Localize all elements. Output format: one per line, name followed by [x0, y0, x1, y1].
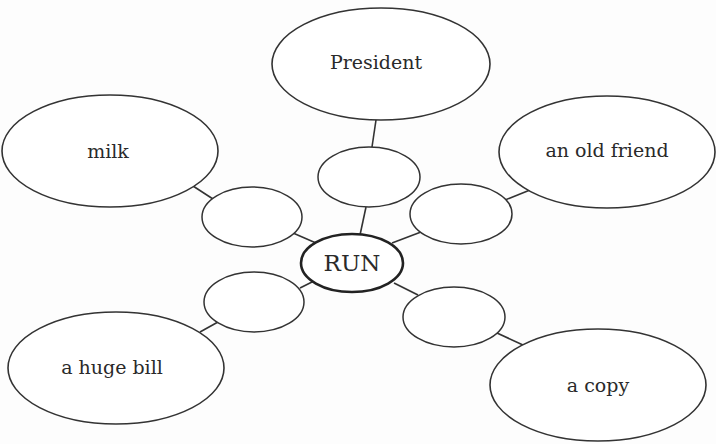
connector-center-upper-right: [392, 232, 421, 243]
node-a-huge-bill: a huge bill: [8, 312, 224, 424]
blank-lower-left[interactable]: [204, 272, 304, 332]
blank-lower-right[interactable]: [403, 287, 505, 347]
node-milk: milk: [2, 95, 218, 207]
blank-upper-right[interactable]: [410, 184, 512, 244]
node-president: President: [272, 8, 490, 120]
connector-lower-left-bill: [200, 322, 218, 332]
node-label: a huge bill: [61, 356, 163, 378]
node-an-old-friend: an old friend: [499, 96, 715, 208]
connector-center-lower-right: [394, 283, 418, 295]
connector-center-top: [360, 207, 366, 235]
connector-upper-left-milk: [193, 186, 213, 199]
connector-upper-right-friend: [505, 190, 530, 200]
node-a-copy: a copy: [490, 329, 706, 441]
node-label: milk: [87, 140, 129, 162]
connector-lower-right-copy: [497, 333, 523, 345]
blank-upper-left[interactable]: [202, 187, 302, 247]
node-center-run: RUN: [301, 234, 403, 292]
node-label: a copy: [567, 374, 630, 396]
connector-center-upper-left: [293, 233, 316, 243]
node-label: President: [330, 51, 423, 73]
connector-top-president: [372, 120, 376, 147]
blank-top[interactable]: [318, 147, 420, 207]
node-label: an old friend: [545, 139, 668, 161]
center-label: RUN: [324, 250, 381, 276]
word-web-diagram: President milk an old friend a huge bill…: [0, 0, 716, 444]
